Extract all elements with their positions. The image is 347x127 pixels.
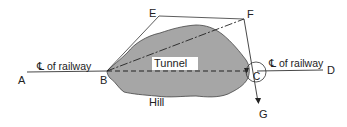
point-label-b: B xyxy=(100,74,107,86)
point-label-e: E xyxy=(149,7,156,19)
point-label-d: D xyxy=(327,64,335,76)
line-ef xyxy=(159,16,244,19)
centerline-label-right: ℄ of railway xyxy=(268,57,324,69)
tunnel-label: Tunnel xyxy=(154,57,187,69)
point-label-a: A xyxy=(18,74,26,86)
arrowhead-g-icon xyxy=(255,98,261,104)
hill-label: Hill xyxy=(149,96,164,108)
point-label-c: C xyxy=(253,71,260,82)
point-label-f: F xyxy=(247,8,254,20)
point-label-g: G xyxy=(259,108,268,120)
centerline-cd xyxy=(257,70,323,71)
centerline-label-left: ℄ of railway xyxy=(36,60,92,72)
railway-tunnel-diagram: A B C D E F G ℄ of railway ℄ of railway … xyxy=(0,0,347,127)
